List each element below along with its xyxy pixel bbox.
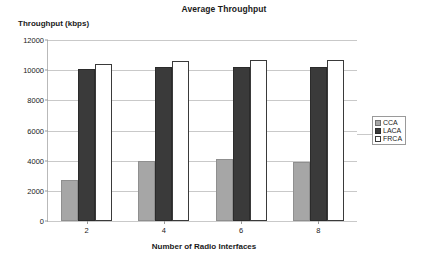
y-tick-label: 4000	[27, 156, 44, 165]
bar-cca-6	[216, 159, 233, 221]
bar-cca-2	[61, 180, 78, 221]
chart-legend: CCALACAFRCA	[372, 116, 406, 145]
y-tick-label: 8000	[27, 96, 44, 105]
y-tick-label: 2000	[27, 186, 44, 195]
y-tick-label: 12000	[23, 36, 44, 45]
bar-cca-4	[138, 161, 155, 221]
y-axis-title: Throughput (kbps)	[18, 19, 89, 28]
y-tick-label: 0	[40, 217, 44, 226]
y-tick-label: 10000	[23, 66, 44, 75]
legend-swatch-frca	[375, 136, 381, 142]
x-tick-mark	[241, 221, 242, 224]
bar-laca-4	[155, 67, 172, 221]
bar-laca-8	[310, 67, 327, 221]
bar-laca-6	[233, 67, 250, 221]
bar-group: 8	[280, 40, 357, 221]
legend-label: LACA	[383, 127, 401, 134]
bar-frca-8	[327, 60, 344, 221]
bar-group: 2	[48, 40, 125, 221]
x-tick-label: 8	[316, 226, 320, 235]
chart-title: Average Throughput	[0, 4, 426, 14]
plot-area: 020004000600080001000012000 2468	[47, 40, 357, 222]
x-tick-label: 6	[239, 226, 243, 235]
bar-laca-2	[78, 69, 95, 221]
gridline	[48, 221, 357, 222]
legend-swatch-laca	[375, 128, 381, 134]
x-tick-mark	[318, 221, 319, 224]
bar-frca-4	[172, 61, 189, 221]
legend-label: CCA	[383, 119, 398, 126]
legend-item-laca: LACA	[375, 127, 402, 134]
chart-container: Average Throughput Throughput (kbps) 020…	[0, 0, 426, 256]
legend-label: FRCA	[383, 135, 402, 142]
y-tick-label: 6000	[27, 126, 44, 135]
bar-group: 4	[125, 40, 202, 221]
x-tick-label: 4	[162, 226, 166, 235]
legend-swatch-cca	[375, 120, 381, 126]
x-tick-mark	[164, 221, 165, 224]
legend-item-frca: FRCA	[375, 135, 402, 142]
bar-group: 6	[203, 40, 280, 221]
x-tick-mark	[87, 221, 88, 224]
bar-groups: 2468	[48, 40, 357, 221]
bar-cca-8	[293, 162, 310, 221]
bar-frca-6	[250, 60, 267, 221]
x-tick-label: 2	[85, 226, 89, 235]
x-axis-title: Number of Radio Interfaces	[40, 242, 368, 251]
legend-connector-line	[357, 134, 373, 135]
bar-frca-2	[95, 64, 112, 221]
legend-item-cca: CCA	[375, 119, 402, 126]
